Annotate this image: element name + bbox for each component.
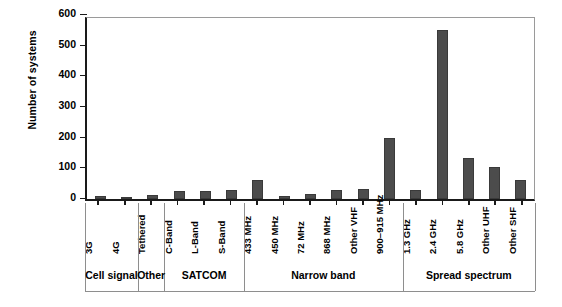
bar	[252, 180, 263, 199]
bar	[358, 189, 369, 199]
group-labels: Cell signalOtherSATCOMNarrow bandSpread …	[85, 258, 535, 292]
bar-chart: Number of systems 0100200300400500600 3G…	[0, 0, 562, 307]
y-axis-tick-label: 300	[58, 99, 76, 111]
y-axis-tick: 500	[80, 45, 87, 46]
bar-slot	[166, 18, 192, 199]
group-label: Other	[138, 258, 164, 292]
x-axis-tick-label: Other VHF	[348, 207, 359, 254]
bar-slot	[376, 18, 402, 199]
x-axis-tick-label: 868 MHz	[321, 216, 332, 254]
x-axis-tick-label: 4G	[110, 241, 121, 254]
x-axis-tick-label: Other SHF	[507, 207, 518, 254]
y-axis-tick-label: 100	[58, 160, 76, 172]
x-axis-tick-label: 2.4 GHz	[427, 219, 438, 254]
y-axis-tick: 600	[80, 14, 87, 15]
bar-slot	[271, 18, 297, 199]
bar	[410, 190, 421, 199]
bar-slot	[455, 18, 481, 199]
group-label: Narrow band	[244, 258, 403, 292]
bar	[174, 191, 185, 199]
x-axis-tick-label: L-Band	[189, 221, 200, 254]
bar-slot	[508, 18, 534, 199]
x-axis-tick-label: 900–915 MHz	[374, 195, 385, 254]
bar-slot	[192, 18, 218, 199]
bar	[200, 191, 211, 199]
x-axis-tick-label: 450 MHz	[269, 216, 280, 254]
y-axis-tick-label: 400	[58, 68, 76, 80]
bar-slot	[481, 18, 507, 199]
bar	[331, 190, 342, 199]
x-label-slot: Tethered	[138, 203, 164, 255]
x-label-slot: 3G	[85, 203, 111, 255]
x-axis-labels: 3G4GTetheredC-BandL-BandS-Band433 MHz450…	[85, 203, 535, 255]
group-separator	[535, 203, 536, 291]
x-label-slot: Other VHF	[350, 203, 376, 255]
bar-slot	[245, 18, 271, 199]
y-axis-title: Number of systems	[26, 0, 38, 160]
bar	[489, 167, 500, 199]
x-label-slot: 5.8 GHz	[456, 203, 482, 255]
bar-slot	[297, 18, 323, 199]
bars-layer	[87, 18, 534, 199]
bar-slot	[113, 18, 139, 199]
bar	[463, 158, 474, 199]
bar-slot	[218, 18, 244, 199]
y-axis-tick-label: 200	[58, 130, 76, 142]
bar	[515, 180, 526, 199]
x-label-slot: 72 MHz	[297, 203, 323, 255]
y-axis-tick: 300	[80, 106, 87, 107]
x-label-slot: Other UHF	[482, 203, 508, 255]
y-axis-tick: 100	[80, 167, 87, 168]
plot-area: 0100200300400500600	[85, 17, 535, 201]
x-label-slot: S-Band	[217, 203, 243, 255]
bar-slot	[324, 18, 350, 199]
group-label: Spread spectrum	[403, 258, 535, 292]
x-label-slot: 2.4 GHz	[429, 203, 455, 255]
bar-slot	[87, 18, 113, 199]
x-axis-tick-label: 72 MHz	[295, 221, 306, 254]
y-axis-tick-label: 500	[58, 38, 76, 50]
bar	[437, 30, 448, 199]
x-label-slot: L-Band	[191, 203, 217, 255]
x-axis-tick-label: Other UHF	[480, 207, 491, 255]
bar-slot	[403, 18, 429, 199]
x-label-slot: 900–915 MHz	[376, 203, 402, 255]
bar-slot	[140, 18, 166, 199]
y-axis-tick: 400	[80, 75, 87, 76]
bar	[384, 138, 395, 199]
x-label-slot: 1.3 GHz	[403, 203, 429, 255]
bar-slot	[350, 18, 376, 199]
bar	[226, 190, 237, 199]
group-label: SATCOM	[164, 258, 243, 292]
x-label-slot: 868 MHz	[323, 203, 349, 255]
y-axis-tick: 200	[80, 137, 87, 138]
x-label-slot: Other SHF	[509, 203, 535, 255]
y-axis-tick-label: 0	[70, 191, 76, 203]
y-axis-tick-label: 600	[58, 7, 76, 19]
x-label-slot: 433 MHz	[244, 203, 270, 255]
group-label: Cell signal	[85, 258, 138, 292]
x-label-slot: 450 MHz	[270, 203, 296, 255]
x-label-slot: 4G	[111, 203, 137, 255]
bar-slot	[429, 18, 455, 199]
x-label-slot: C-Band	[164, 203, 190, 255]
x-axis-tick-label: 5.8 GHz	[454, 219, 465, 254]
x-axis-tick-label: S-Band	[216, 221, 227, 254]
